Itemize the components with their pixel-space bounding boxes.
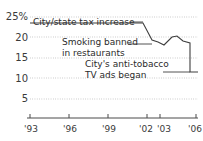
x-tick-label-1999: '99 [102, 124, 116, 134]
annotation-tv-ads: City's anti-tobacco TV ads began [84, 59, 169, 80]
annotation-tv-ads-line1: City's anti-tobacco [85, 59, 169, 69]
x-tick-label-2003: '03 [157, 124, 171, 134]
x-axis [27, 114, 198, 118]
chart-container: 25% 20 15 10 5 City/state tax increase S… [0, 0, 203, 141]
annotation-tax-increase: City/state tax increase [33, 17, 135, 27]
y-tick-label-5: 5 [22, 93, 28, 104]
x-tick-label-2006: '06 [188, 124, 202, 134]
y-axis-labels: 25% 20 15 10 5 [6, 11, 28, 104]
y-tick-label-25: 25% [6, 11, 28, 22]
y-tick-label-10: 10 [15, 73, 28, 84]
x-tick-label-1993: '93 [24, 124, 38, 134]
gridlines [30, 17, 198, 99]
y-tick-label-20: 20 [15, 32, 28, 43]
x-tick-label-2002: '02 [139, 124, 153, 134]
annotation-smoking-ban-line1: Smoking banned [62, 37, 138, 47]
annotation-smoking-ban: Smoking banned in restaurants [62, 37, 138, 58]
annotation-smoking-ban-line2: in restaurants [62, 48, 125, 58]
x-axis-labels: '93 '96 '99 '02 '03 '06 [24, 124, 202, 134]
x-tick-label-1996: '96 [63, 124, 77, 134]
line-chart: 25% 20 15 10 5 City/state tax increase S… [0, 0, 203, 141]
annotation-tv-ads-line2: TV ads began [84, 70, 146, 80]
annotation-tax-increase-line1: City/state tax increase [33, 17, 135, 27]
y-tick-label-15: 15 [15, 52, 28, 63]
